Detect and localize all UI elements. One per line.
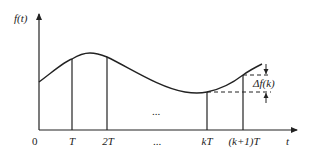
y-axis-label: f(t) (14, 12, 28, 25)
tick-label-k1T: (k+1)T (228, 135, 260, 148)
tick-label-ellipsis: ... (153, 135, 162, 147)
x-axis-label: t (286, 135, 290, 147)
ellipsis-mid: ... (152, 105, 161, 117)
tick-label-kT: kT (202, 135, 214, 147)
tick-label-2T: 2T (102, 135, 115, 147)
origin-label: 0 (32, 135, 38, 147)
delta-label: Δf(k) (252, 77, 275, 90)
tick-label-T: T (69, 135, 76, 147)
sampling-diagram: f(t) Δf(k) ... 0 T 2T ... kT (k+1)T t (0, 0, 311, 157)
